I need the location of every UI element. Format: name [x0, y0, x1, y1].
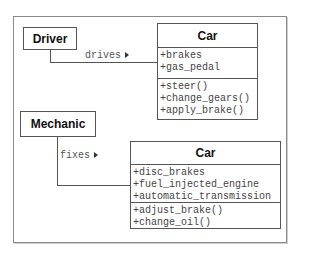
- car-class-box-bottom: Car +disc_brakes +fuel_injected_engine +…: [130, 141, 281, 229]
- fixes-label-text: fixes: [60, 150, 90, 161]
- operation-steer: +steer(): [160, 81, 257, 93]
- car-operations-section: +steer() +change_gears() +apply_brake(): [158, 78, 257, 119]
- driver-class-box: Driver: [23, 27, 77, 50]
- fixes-connector-vertical: [57, 136, 58, 186]
- car-class-name: Car: [197, 29, 217, 43]
- car-class-box-top: Car +brakes +gas_pedal +steer() +change_…: [157, 23, 258, 120]
- drives-connector-vertical: [50, 49, 51, 63]
- fixes-connector-horizontal: [57, 185, 130, 186]
- drives-association-label: drives: [85, 50, 129, 62]
- operation-adjust-brake: +adjust_brake(): [133, 205, 280, 217]
- drives-connector-horizontal: [50, 62, 157, 63]
- attribute-brakes: +brakes: [160, 50, 257, 62]
- operation-change-gears: +change_gears(): [160, 93, 257, 105]
- attribute-gas-pedal: +gas_pedal: [160, 62, 257, 74]
- car-class-name: Car: [195, 146, 215, 160]
- drives-label-text: drives: [85, 50, 121, 61]
- car-class-header: Car: [158, 24, 257, 48]
- car-class-header: Car: [131, 142, 280, 165]
- attribute-automatic-transmission: +automatic_transmission: [133, 191, 280, 203]
- car-operations-section: +adjust_brake() +change_oil(): [131, 202, 280, 228]
- direction-triangle-icon: [125, 52, 129, 58]
- direction-triangle-icon: [94, 152, 98, 158]
- operation-change-oil: +change_oil(): [133, 217, 280, 229]
- operation-apply-brake: +apply_brake(): [160, 105, 257, 117]
- attribute-disc-brakes: +disc_brakes: [133, 167, 280, 179]
- mechanic-class-box: Mechanic: [20, 111, 96, 137]
- car-attributes-section: +disc_brakes +fuel_injected_engine +auto…: [131, 165, 280, 202]
- fixes-association-label: fixes: [60, 150, 98, 162]
- attribute-fuel-injected-engine: +fuel_injected_engine: [133, 179, 280, 191]
- car-attributes-section: +brakes +gas_pedal: [158, 48, 257, 78]
- mechanic-class-name: Mechanic: [31, 117, 86, 131]
- driver-class-name: Driver: [33, 32, 68, 46]
